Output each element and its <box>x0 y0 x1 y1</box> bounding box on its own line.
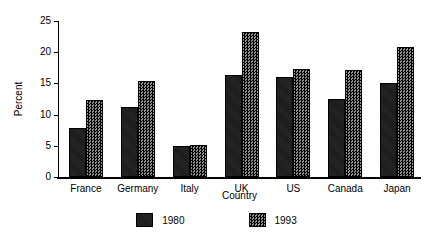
bar-germany-1980 <box>121 107 138 177</box>
y-tick-mark <box>54 115 58 116</box>
bar-germany-1993 <box>138 81 155 177</box>
bar-group <box>328 21 362 177</box>
x-axis-label: Country <box>58 190 421 201</box>
bar-japan-1993 <box>397 47 414 177</box>
y-tick-label: 10 <box>40 110 51 120</box>
y-tick-label: 20 <box>40 47 51 57</box>
bar-uk-1980 <box>225 75 242 177</box>
y-tick-mark <box>54 83 58 84</box>
bar-uk-1993 <box>242 32 259 177</box>
y-tick-mark <box>54 146 58 147</box>
chart-legend: 1980 1993 <box>0 213 433 227</box>
legend-swatch-1980 <box>136 213 153 227</box>
bar-italy-1993 <box>190 145 207 177</box>
bar-group <box>276 21 310 177</box>
legend-label-1980: 1980 <box>162 215 184 226</box>
legend-swatch-1993 <box>249 213 266 227</box>
bar-italy-1980 <box>173 146 190 177</box>
y-axis-spine <box>58 21 59 178</box>
bar-france-1980 <box>69 128 86 177</box>
plot-area: 0510152025 FranceGermanyItalyUKUSCanadaJ… <box>58 21 421 177</box>
y-tick-label: 15 <box>40 78 51 88</box>
y-tick-label: 5 <box>45 141 51 151</box>
x-axis-spine <box>57 177 421 179</box>
bar-group <box>121 21 155 177</box>
y-tick-mark <box>54 177 58 178</box>
y-axis-label: Percent <box>12 21 26 177</box>
bar-us-1980 <box>276 77 293 177</box>
bar-canada-1980 <box>328 99 345 177</box>
bar-chart-figure: Percent 0510152025 FranceGermanyItalyUKU… <box>0 0 433 249</box>
bar-group <box>225 21 259 177</box>
bar-france-1993 <box>86 100 103 177</box>
bar-group <box>380 21 414 177</box>
y-tick-mark <box>54 21 58 22</box>
bar-group <box>69 21 103 177</box>
y-tick-mark <box>54 52 58 53</box>
bar-canada-1993 <box>345 70 362 177</box>
bar-japan-1980 <box>380 83 397 177</box>
legend-item-1980: 1980 <box>136 213 184 227</box>
y-tick-label: 25 <box>40 16 51 26</box>
legend-label-1993: 1993 <box>275 215 297 226</box>
bar-group <box>173 21 207 177</box>
legend-item-1993: 1993 <box>249 213 297 227</box>
y-tick-label: 0 <box>45 172 51 182</box>
bar-us-1993 <box>293 69 310 177</box>
